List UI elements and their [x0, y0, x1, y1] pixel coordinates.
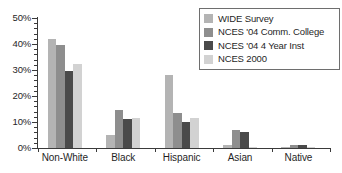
bar — [48, 39, 57, 148]
legend-swatch-icon — [204, 41, 213, 50]
legend-item[interactable]: WIDE Survey — [204, 12, 335, 26]
bar — [298, 145, 307, 148]
bar — [223, 145, 232, 148]
legend-swatch-icon — [204, 14, 213, 23]
y-axis-tick-label: 20% — [0, 90, 31, 101]
chart-legend: WIDE Survey NCES '04 Comm. College NCES … — [199, 8, 340, 70]
legend-item-label: WIDE Survey — [218, 14, 273, 24]
x-axis-tick-label: Hispanic — [152, 152, 210, 163]
bar — [240, 132, 249, 148]
x-axis-tick-label: Native — [269, 152, 327, 163]
y-axis-tick-label: 30% — [0, 64, 31, 75]
legend-item[interactable]: NCES '04 4 Year Inst — [204, 39, 335, 53]
x-axis-tick-label: Asian — [211, 152, 269, 163]
x-axis-tick-label: Black — [94, 152, 152, 163]
bar — [132, 118, 141, 148]
bar — [56, 45, 65, 148]
y-axis-tick-label: 10% — [0, 116, 31, 127]
y-axis-tick-label: 50% — [0, 12, 31, 23]
bar — [249, 147, 258, 148]
bar — [73, 64, 82, 149]
x-axis-tick-label: Non-White — [36, 152, 94, 163]
bar — [106, 135, 115, 148]
bar — [281, 147, 290, 148]
legend-swatch-icon — [204, 28, 213, 37]
x-axis-tick — [330, 148, 331, 152]
bar — [65, 71, 74, 148]
legend-item-label: NCES 2000 — [218, 54, 267, 64]
legend-item-label: NCES '04 4 Year Inst — [218, 41, 304, 51]
bar — [290, 145, 299, 148]
y-axis-tick-label: 0% — [0, 142, 31, 153]
x-axis-line — [37, 148, 330, 149]
bar — [232, 130, 241, 148]
bar — [182, 122, 191, 148]
bar — [123, 119, 132, 148]
bar — [165, 75, 174, 148]
bar — [173, 113, 182, 148]
legend-item[interactable]: NCES '04 Comm. College — [204, 26, 335, 40]
bar — [190, 118, 199, 148]
legend-item-label: NCES '04 Comm. College — [218, 27, 324, 37]
y-axis-tick-label: 40% — [0, 38, 31, 49]
legend-item[interactable]: NCES 2000 — [204, 53, 335, 67]
legend-swatch-icon — [204, 55, 213, 64]
bar — [307, 147, 316, 148]
bar — [115, 110, 124, 148]
bar-chart: 0%10%20%30%40%50% Non-WhiteBlackHispanic… — [0, 0, 342, 173]
